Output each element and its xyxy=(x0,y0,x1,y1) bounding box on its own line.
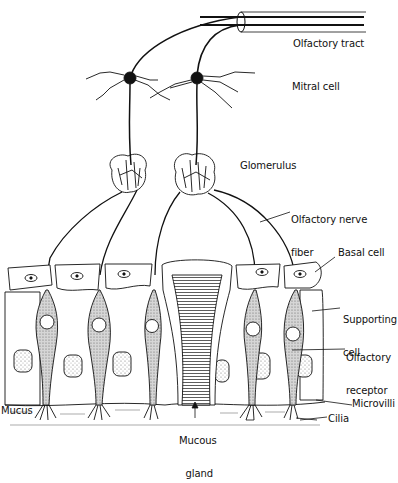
label-line: gland xyxy=(179,468,217,479)
label-olfactory-receptor: Olfactory receptor xyxy=(346,330,391,407)
label-olfactory-tract: Olfactory tract xyxy=(293,38,364,49)
mitral-cell-left xyxy=(86,72,170,165)
label-glomerulus: Glomerulus xyxy=(240,160,296,171)
label-line: Mucous xyxy=(179,435,217,446)
mucous-gland xyxy=(162,260,232,405)
mitral-cell-right xyxy=(150,72,255,165)
mucus-layer xyxy=(10,410,320,425)
label-line: Olfactory nerve xyxy=(291,214,367,225)
label-mucous-gland: Mucous gland xyxy=(179,413,217,483)
label-line: Olfactory xyxy=(346,352,391,363)
label-mucus: Mucus xyxy=(1,405,33,416)
label-line: Supporting xyxy=(343,314,397,325)
label-microvilli: Microvilli xyxy=(352,398,395,409)
label-basal-cell: Basal cell xyxy=(338,247,385,258)
glomerulus-left xyxy=(110,154,146,192)
label-line: receptor xyxy=(346,385,391,396)
label-cilia: Cilia xyxy=(328,413,349,424)
glomerulus-right xyxy=(174,154,215,195)
cilia xyxy=(35,405,298,420)
label-mitral-cell: Mitral cell xyxy=(292,81,340,92)
